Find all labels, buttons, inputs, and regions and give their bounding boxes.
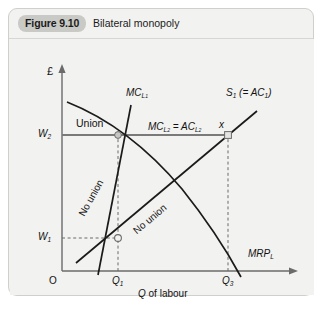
label-mc-ac-l2-eq: = — [170, 121, 181, 132]
mc-l1-curve — [98, 105, 131, 275]
label-mc-ac-l2-sub-b: L — [195, 126, 199, 133]
figure-number-badge: Figure 9.10 — [18, 15, 86, 32]
y-tick-w2-sub: 2 — [47, 133, 51, 140]
label-mrp-l: MRPL — [248, 248, 274, 259]
label-mc-ac-l2-sub2: 2 — [167, 127, 170, 133]
figure-caption: Bilateral monopoly — [93, 15, 179, 32]
label-s1-ac-sub: 1 — [265, 92, 269, 99]
label-mc-l1-base: MC — [126, 87, 142, 98]
figure-header: Figure 9.10 Bilateral monopoly — [9, 9, 313, 39]
figure-panel: Figure 9.10 Bilateral monopoly — [8, 8, 314, 296]
label-mc-ac-l2-sub2-b: 2 — [199, 127, 202, 133]
label-mc-ac-l2-mc: MC — [148, 121, 164, 132]
label-s1-close: ) — [268, 87, 271, 98]
label-mc-l1-sub2: 1 — [145, 93, 148, 99]
x-tick-q1-base: Q — [112, 275, 120, 286]
x-tick-q3: Q3 — [222, 275, 233, 286]
label-union: Union — [76, 117, 103, 129]
origin-label: O — [49, 275, 57, 286]
plot-area: £ O W2 W1 Q1 Q3 Q of labour Union No uni… — [10, 39, 314, 295]
x-tick-q3-base: Q — [222, 275, 230, 286]
y-tick-w2: W2 — [38, 128, 51, 139]
node-q1-w1 — [115, 235, 122, 242]
node-point-x — [225, 132, 232, 139]
y-tick-w1: W1 — [38, 231, 51, 242]
label-s1-paren: (= — [236, 87, 250, 98]
x-axis-label-rest: of labour — [146, 288, 188, 299]
x-axis-arrow — [289, 267, 298, 274]
node-q1-w2 — [115, 132, 122, 139]
label-mrp-sub: L — [270, 253, 274, 260]
label-mc-ac-l2: MCL2 = ACL2 — [148, 121, 201, 132]
x-tick-q1-sub: 1 — [120, 280, 124, 287]
y-axis-arrow — [58, 64, 65, 73]
x-tick-q3-sub: 3 — [230, 280, 234, 287]
x-tick-q1: Q1 — [112, 275, 123, 286]
y-axis-label: £ — [47, 65, 53, 77]
label-point-x: x — [219, 119, 224, 130]
label-s1-ac: AC — [251, 87, 265, 98]
label-mc-l1: MCL1 — [126, 87, 148, 98]
y-tick-w1-sub: 1 — [47, 236, 51, 243]
x-axis-label: Q of labour — [138, 288, 187, 299]
label-mrp-base: MRP — [248, 248, 270, 259]
label-s1-base: S — [226, 87, 233, 98]
x-axis-label-italic: Q — [138, 288, 146, 299]
label-s1-ac1: S1 (= AC1) — [226, 87, 272, 98]
label-mc-ac-l2-ac: AC — [181, 121, 195, 132]
label-s1-sub: 1 — [233, 92, 237, 99]
